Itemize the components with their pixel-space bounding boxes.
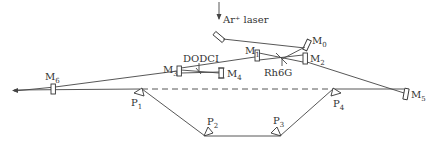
prism-p3-label: P3 xyxy=(273,115,284,129)
mirror-m0-label: M0 xyxy=(312,35,327,49)
dodci-label: DODCI xyxy=(183,53,219,64)
mirror-m5-label: M5 xyxy=(411,89,426,103)
prism-beam-path xyxy=(142,89,333,136)
mirror-m6-label: M6 xyxy=(45,71,60,85)
pump-beam-to-m0 xyxy=(223,39,305,48)
pump-steering-mirror xyxy=(213,31,225,42)
rh6g-label: Rh6G xyxy=(264,67,292,78)
mirror-m5 xyxy=(403,88,409,100)
mirror-m6 xyxy=(51,84,55,94)
beam-m6-m3 xyxy=(55,71,177,87)
output-arrow-icon xyxy=(12,88,18,93)
prism-p4-label: P4 xyxy=(333,98,345,112)
mirror-m2 xyxy=(303,53,307,64)
mirror-m1-label: M1 xyxy=(245,45,260,59)
optical-diagram: Ar⁺ laser M0 M1 M2 Rh6G M3 M4 DODCI M5 xyxy=(0,0,431,146)
prism-p1-label: P1 xyxy=(131,97,142,111)
pump-label: Ar⁺ laser xyxy=(222,14,269,25)
mirror-m4-label: M4 xyxy=(227,68,242,82)
pump-arrow xyxy=(217,2,222,20)
mirror-m4 xyxy=(219,68,223,78)
mirror-m0 xyxy=(303,39,312,51)
beam-m2-m5 xyxy=(307,62,404,93)
prism-p2 xyxy=(204,127,213,136)
